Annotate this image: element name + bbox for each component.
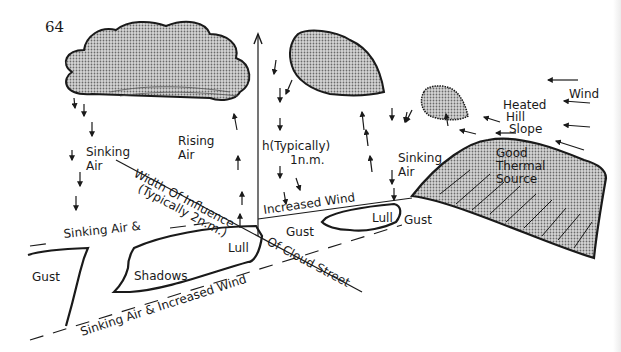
cumulus-cloud-left	[66, 22, 250, 100]
label-height-2: 1n.m.	[290, 153, 325, 167]
label-gust-center: Gust	[286, 225, 314, 239]
label-good: Good	[496, 146, 528, 160]
label-sinking-air-left-1: Sinking	[86, 145, 130, 159]
sinking-arrows-center	[274, 60, 300, 204]
label-rising-air-1: Rising	[178, 134, 214, 148]
label-shadows: Shadows	[134, 269, 188, 283]
page-number: 64	[45, 18, 64, 36]
label-wind: Wind	[569, 87, 599, 101]
label-slope: Slope	[509, 122, 542, 136]
label-gust-left: Gust	[32, 270, 60, 284]
page-edge-shadow	[613, 0, 621, 352]
label-rising-air-2: Air	[178, 148, 195, 162]
label-sinking-air-left-2: Air	[86, 159, 103, 173]
label-sinking-air-right-1: Sinking	[398, 151, 442, 165]
cloud-street-diagram: 64	[0, 0, 621, 352]
cumulus-cloud-middle	[290, 31, 384, 96]
label-sinking-air-and: Sinking Air &	[63, 219, 142, 241]
label-lull-left: Lull	[228, 241, 249, 255]
cumulus-cloud-small	[422, 86, 468, 120]
label-sinking-air-right-2: Air	[398, 165, 415, 179]
label-thermal: Thermal	[495, 159, 545, 173]
rising-arrows	[234, 114, 242, 228]
label-lull-right: Lull	[372, 211, 393, 225]
label-height-1: h(Typically)	[262, 139, 330, 153]
label-gust-right: Gust	[404, 213, 432, 227]
label-source: Source	[496, 172, 537, 186]
label-of-cloud-street: Of Cloud Street	[265, 234, 353, 290]
